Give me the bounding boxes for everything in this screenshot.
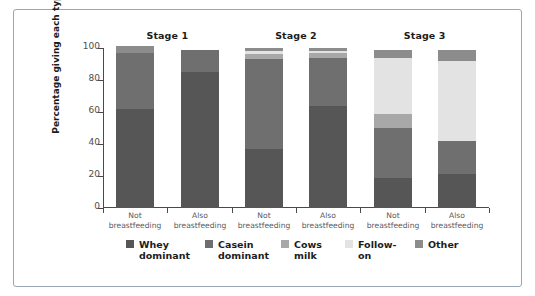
legend-item[interactable]: Whey dominant — [126, 239, 190, 261]
y-axis-tick-label: 40 — [76, 137, 100, 147]
bar-segment[interactable] — [374, 58, 412, 114]
y-axis-tick-label: 80 — [76, 73, 100, 83]
legend-label: Other — [428, 239, 459, 250]
stacked-bar[interactable] — [116, 46, 154, 208]
x-axis-label-line1: Also — [292, 211, 364, 221]
y-axis-tick-label: 100 — [76, 41, 100, 51]
bar-segment[interactable] — [245, 149, 283, 208]
y-axis-line — [103, 48, 104, 208]
x-axis-label-line1: Also — [421, 211, 493, 221]
x-axis-label-line2: breastfeeding — [164, 221, 236, 231]
x-axis-label: Alsobreastfeeding — [421, 211, 493, 230]
bar-segment[interactable] — [438, 174, 476, 208]
bar-segment[interactable] — [181, 72, 219, 208]
stacked-bar[interactable] — [181, 50, 219, 208]
chart-legend: Whey dominantCasein dominantCows milkFol… — [103, 239, 493, 265]
x-axis-label-line1: Also — [164, 211, 236, 221]
bar-segment[interactable] — [438, 61, 476, 141]
bar-segment[interactable] — [374, 50, 412, 58]
x-axis-label: Alsobreastfeeding — [164, 211, 236, 230]
chart-figure: Stage 1Stage 2Stage 3 Percentage giving … — [0, 0, 535, 296]
legend-item[interactable]: Cows milk — [281, 239, 322, 261]
x-axis-label-line2: breastfeeding — [421, 221, 493, 231]
legend-swatch-icon — [415, 240, 423, 248]
legend-swatch-icon — [281, 240, 289, 248]
bar-segment[interactable] — [309, 106, 347, 208]
legend-swatch-icon — [126, 240, 134, 248]
y-axis-title: Percentage giving each type — [51, 0, 61, 141]
y-axis-tick-label: 60 — [76, 105, 100, 115]
stacked-bar[interactable] — [374, 50, 412, 208]
bar-segment[interactable] — [245, 59, 283, 149]
legend-item[interactable]: Follow- on — [345, 239, 396, 261]
bar-segment[interactable] — [116, 109, 154, 208]
bar-segment[interactable] — [374, 128, 412, 178]
bar-segment[interactable] — [181, 50, 219, 72]
plot-area: 100806040200 — [103, 48, 489, 208]
x-axis-label: Alsobreastfeeding — [292, 211, 364, 230]
x-axis-label-row: NotbreastfeedingAlsobreastfeedingNotbrea… — [103, 211, 489, 237]
bar-segment[interactable] — [438, 50, 476, 61]
y-axis-tick-label: 20 — [76, 169, 100, 179]
x-axis-label-line1: Not — [99, 211, 171, 221]
legend-label: Casein dominant — [218, 239, 269, 261]
bar-segment[interactable] — [309, 58, 347, 106]
stacked-bar[interactable] — [245, 48, 283, 208]
stage-title-3: Stage 3 — [365, 30, 485, 41]
stacked-bar[interactable] — [438, 50, 476, 208]
bar-segment[interactable] — [374, 114, 412, 128]
legend-item[interactable]: Other — [415, 239, 459, 250]
bar-segment[interactable] — [116, 53, 154, 109]
legend-label: Follow- on — [358, 239, 396, 261]
x-axis-label-line1: Not — [228, 211, 300, 221]
x-axis-label: Notbreastfeeding — [357, 211, 429, 230]
legend-label: Cows milk — [294, 239, 322, 261]
bar-segment[interactable] — [438, 141, 476, 175]
stacked-bar[interactable] — [309, 48, 347, 208]
stage-title-2: Stage 2 — [236, 30, 356, 41]
x-axis-label-line2: breastfeeding — [99, 221, 171, 231]
y-axis-tick-label: 0 — [76, 201, 100, 211]
stage-title-1: Stage 1 — [107, 30, 227, 41]
x-axis-label-line2: breastfeeding — [228, 221, 300, 231]
bar-segment[interactable] — [374, 178, 412, 208]
x-axis-label-line2: breastfeeding — [292, 221, 364, 231]
x-axis-label: Notbreastfeeding — [99, 211, 171, 230]
legend-item[interactable]: Casein dominant — [205, 239, 269, 261]
legend-swatch-icon — [345, 240, 353, 248]
x-axis-label-line2: breastfeeding — [357, 221, 429, 231]
legend-swatch-icon — [205, 240, 213, 248]
x-axis-label: Notbreastfeeding — [228, 211, 300, 230]
stage-title-row: Stage 1Stage 2Stage 3 — [100, 30, 490, 46]
x-axis-label-line1: Not — [357, 211, 429, 221]
legend-label: Whey dominant — [139, 239, 190, 261]
